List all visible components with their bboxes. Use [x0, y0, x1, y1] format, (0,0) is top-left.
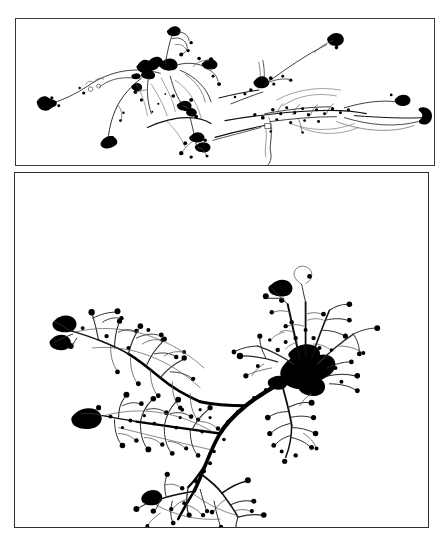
- lower-branch: [133, 461, 266, 527]
- upper-panel-illustration: [16, 19, 434, 165]
- lower-panel: [14, 172, 429, 528]
- upper-left-branch: [50, 308, 205, 422]
- upper-panel: [15, 18, 435, 166]
- specimen-top-left: [37, 26, 221, 159]
- specimen-bottom: [50, 266, 381, 527]
- lower-panel-illustration: [15, 173, 428, 527]
- figure-plate: [0, 0, 448, 540]
- specimen-top-right: [213, 33, 432, 165]
- right-branch: [265, 384, 319, 464]
